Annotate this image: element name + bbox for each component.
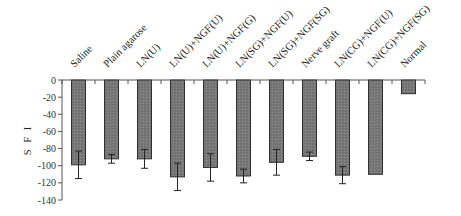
y-tick-label: -80: [43, 143, 56, 154]
bar: [105, 80, 119, 159]
y-axis-title: S F I: [22, 125, 33, 155]
bar: [138, 80, 152, 159]
category-label: Normal: [398, 39, 429, 70]
y-axis-label: S F I: [22, 125, 33, 155]
y-tick-label: -60: [43, 126, 56, 137]
y-tick-label: -120: [38, 177, 56, 188]
category-label: LN(SG)+NGF(U): [233, 8, 296, 71]
bar: [336, 80, 350, 175]
bar: [303, 80, 317, 156]
sfi-bar-chart: 0-20-40-60-80-100-120-140 S F I SalinePl…: [0, 0, 461, 216]
y-tick-label: -20: [43, 92, 56, 103]
y-tick-label: -140: [38, 195, 56, 206]
y-tick-label: -100: [38, 160, 56, 171]
category-labels: SalinePlain agaroseLN(U)LN(U)+NGF(U)LN(U…: [68, 3, 432, 70]
category-label: LN(CG)+NGF(U): [332, 7, 395, 70]
bar: [402, 80, 416, 94]
y-tick-label: 0: [51, 75, 56, 86]
y-tick-label: -40: [43, 109, 56, 120]
category-label: LN(U): [134, 41, 163, 70]
bar: [171, 80, 185, 177]
bar: [369, 80, 383, 174]
bars: [72, 80, 416, 191]
category-label: Saline: [68, 43, 95, 70]
y-axis: 0-20-40-60-80-100-120-140: [38, 75, 62, 206]
category-label: LN(U)+NGF(U): [167, 12, 225, 70]
bar: [237, 80, 251, 176]
